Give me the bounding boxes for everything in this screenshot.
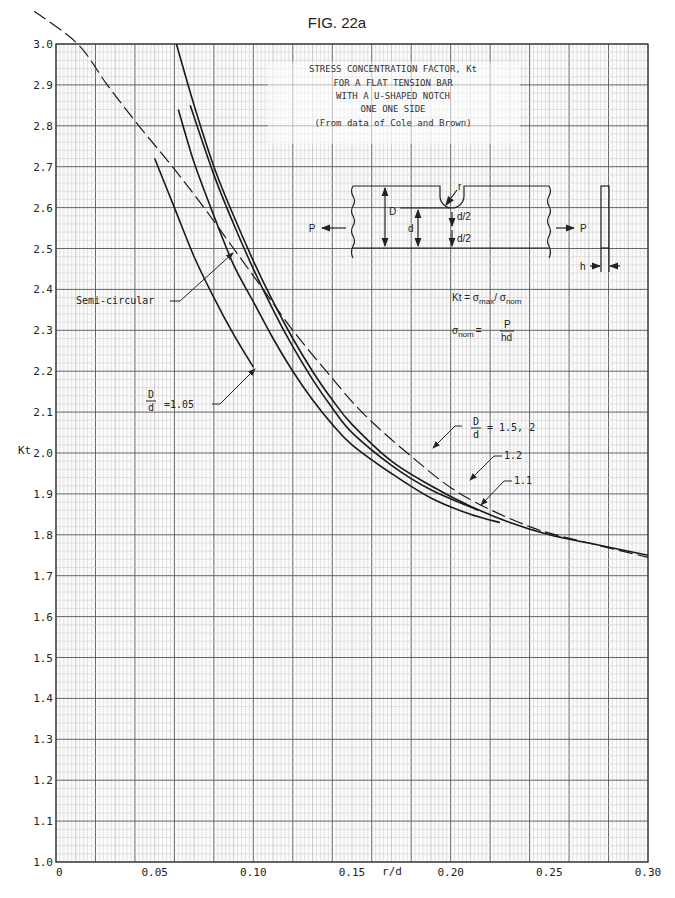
x-tick-label: 0.05	[141, 866, 168, 879]
d105-frac-num: D	[148, 389, 154, 400]
d11-label: 1.1	[514, 475, 532, 486]
d15-frac-den: d	[473, 429, 479, 440]
nominal-stress-denominator: hd	[501, 332, 512, 343]
y-tick-label: 2.4	[33, 283, 53, 296]
y-tick-label: 1.2	[33, 774, 53, 787]
y-tick-label: 2.1	[33, 406, 53, 419]
d15-value-label: = 1.5, 2	[487, 422, 535, 433]
x-tick-label: 0.25	[536, 866, 563, 879]
load-label-left: P	[309, 223, 316, 234]
thickness-label: h	[580, 261, 586, 272]
d12-label: 1.2	[504, 450, 522, 461]
y-axis-label-text: Kt	[18, 444, 31, 457]
nominal-stress-numerator: P	[504, 319, 511, 330]
y-tick-label: 2.2	[33, 365, 53, 378]
semi-circular-label: Semi-circular	[76, 295, 154, 306]
d105-frac-den: d	[148, 402, 154, 413]
y-tick-label: 1.4	[33, 692, 53, 705]
y-tick-label: 2.9	[33, 79, 53, 92]
grid	[56, 44, 648, 862]
title-line-4: ONE ONE SIDE	[360, 104, 425, 114]
y-tick-label: 2.7	[33, 161, 53, 174]
y-tick-label: 2.0	[33, 447, 53, 460]
title-line-1: STRESS CONCENTRATION FACTOR, Kt	[309, 64, 477, 74]
half-d-top-label: d/2	[457, 211, 471, 222]
d105-value-label: =1.05	[164, 399, 194, 410]
half-d-bottom-label: d/2	[457, 233, 471, 244]
x-tick-label: 0.15	[339, 866, 366, 879]
y-tick-label: 1.0	[33, 856, 53, 869]
y-tick-label: 1.9	[33, 488, 53, 501]
y-tick-label: 2.5	[33, 243, 53, 256]
load-label-right: P	[580, 223, 587, 234]
x-tick-label: 0	[56, 866, 63, 879]
stress-concentration-chart: FIG. 22a 00.050.100.150.200.250.301.01.1…	[0, 0, 675, 898]
x-axis-label: r/d	[382, 865, 402, 878]
y-tick-label: 3.0	[33, 38, 53, 51]
chart-title-block: STRESS CONCENTRATION FACTOR, Kt FOR A FL…	[268, 62, 520, 144]
title-line-2: FOR A FLAT TENSION BAR	[333, 78, 453, 88]
y-tick-label: 1.3	[33, 733, 53, 746]
y-tick-label: 1.8	[33, 529, 53, 542]
x-tick-label: 0.10	[240, 866, 267, 879]
x-tick-label: 0.30	[635, 866, 662, 879]
d15-frac-num: D	[473, 416, 479, 427]
y-tick-label: 1.7	[33, 570, 53, 583]
x-tick-label: 0.20	[437, 866, 464, 879]
y-tick-label: 1.6	[33, 611, 53, 624]
title-line-5: (From data of Cole and Brown)	[314, 118, 471, 128]
figure-label: FIG. 22a	[308, 14, 367, 31]
y-tick-label: 2.8	[33, 120, 53, 133]
title-line-3: WITH A U-SHAPED NOTCH	[336, 91, 450, 101]
big-d-label: D	[389, 206, 396, 217]
y-tick-label: 2.6	[33, 202, 53, 215]
y-axis-label: Kt	[18, 444, 31, 457]
small-d-label: d	[408, 223, 414, 234]
y-tick-label: 2.3	[33, 324, 53, 337]
y-tick-label: 1.5	[33, 652, 53, 665]
y-tick-label: 1.1	[33, 815, 53, 828]
